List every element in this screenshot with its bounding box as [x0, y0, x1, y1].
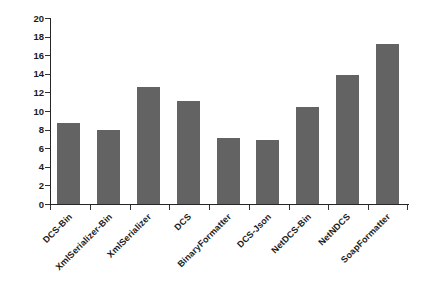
x-axis-tick-label-text: DCS [173, 212, 194, 233]
x-axis-tick-label: DCS [186, 212, 194, 220]
y-axis-tick-label: 12 [33, 87, 44, 98]
bar [296, 107, 319, 204]
bar-chart-figure: Serialized Size (MB) 02468101214161820 D… [0, 0, 424, 281]
bar [217, 138, 240, 204]
x-axis-tick-label: DCS-Bin [67, 212, 75, 220]
bar [177, 101, 200, 204]
x-axis-tick-label: BinaryFormatter [226, 212, 234, 220]
y-axis-tick-label: 16 [33, 50, 44, 61]
x-axis-tick-label: NetDCS-Bin [306, 212, 314, 220]
x-axis-tick-label: XmlSerializer-Bin [107, 212, 115, 220]
x-axis-tick-labels: DCS-BinXmlSerializer-BinXmlSerializerDCS… [0, 205, 424, 281]
x-axis-tick-label: DCS-Json [266, 212, 274, 220]
bar-series [51, 18, 409, 204]
bar [256, 140, 279, 204]
x-axis-tick-label-text: NetDCS-Bin [269, 212, 314, 257]
x-axis-tick-label-text: DCS-Bin [41, 212, 75, 246]
bar [376, 44, 399, 204]
y-axis-tick-label: 18 [33, 31, 44, 42]
x-axis-tick-label: NetNDCS [345, 212, 353, 220]
x-axis-tick-label-text: NetNDCS [317, 212, 354, 249]
x-axis-tick-label-text: DCS-Json [235, 212, 274, 251]
plot-area [50, 18, 409, 205]
bar [137, 87, 160, 204]
y-axis-tick-label: 10 [33, 106, 44, 117]
bar [97, 130, 120, 204]
bar [57, 123, 80, 204]
x-axis-tick-label: XmlSerializer [147, 212, 155, 220]
x-axis-tick-label: SoapFormatter [385, 212, 393, 220]
bar [336, 75, 359, 204]
y-axis-tick-label: 14 [33, 68, 44, 79]
y-axis-tick-label: 20 [33, 13, 44, 24]
y-axis-title: Serialized Size (MB) [2, 0, 16, 32]
